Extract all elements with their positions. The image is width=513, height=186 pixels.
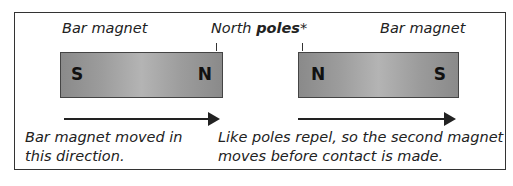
north-label-asterisk: * bbox=[300, 20, 307, 36]
left-magnet-south-pole: S bbox=[71, 64, 83, 84]
left-direction-arrow bbox=[64, 118, 210, 120]
left-caption-line-1: Bar magnet moved in bbox=[25, 128, 183, 147]
left-magnet-label: Bar magnet bbox=[62, 20, 147, 36]
right-direction-arrow bbox=[298, 118, 446, 120]
right-magnet-north-pole: N bbox=[311, 64, 325, 84]
north-label-prefix: North bbox=[211, 20, 256, 36]
right-caption: Like poles repel, so the second magnet m… bbox=[218, 128, 503, 166]
right-bar-magnet: N S bbox=[298, 52, 459, 98]
left-magnet-north-pole: N bbox=[198, 64, 212, 84]
left-caption: Bar magnet moved in this direction. bbox=[25, 128, 183, 166]
right-magnet-label: Bar magnet bbox=[380, 20, 465, 36]
right-magnet-south-pole: S bbox=[434, 64, 446, 84]
left-caption-line-2: this direction. bbox=[25, 147, 183, 166]
right-caption-line-2: moves before contact is made. bbox=[218, 147, 503, 166]
north-pole-pointer-left bbox=[216, 43, 217, 51]
north-pole-pointer-right bbox=[302, 43, 303, 51]
left-bar-magnet: S N bbox=[60, 52, 223, 98]
north-label-bold: poles bbox=[256, 20, 300, 36]
north-poles-label: North poles* bbox=[211, 20, 307, 36]
right-caption-line-1: Like poles repel, so the second magnet bbox=[218, 128, 503, 147]
